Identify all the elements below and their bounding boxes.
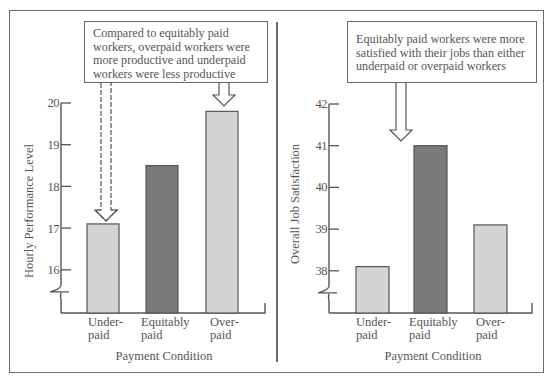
y-tick-label: 17 [35,222,59,237]
category-line: paid [476,329,536,342]
down-arrow-icon [213,83,235,106]
x-category-label: Under- paid [88,316,148,342]
down-arrow-icon [390,83,412,141]
right-x-axis-label: Payment Condition [333,349,533,364]
category-line: paid [88,329,148,342]
y-tick-label: 38 [303,264,327,279]
left-annotation-box: Compared to equitably paid workers, over… [84,21,268,83]
x-category-label: Over- paid [210,316,270,342]
category-line: paid [210,329,270,342]
bar [146,166,178,313]
bar [414,146,447,313]
axis-break-mark [318,287,337,293]
bar [356,267,389,313]
right-y-axis-label: Overall Job Satisfaction [288,144,303,264]
y-tick-label: 19 [35,138,59,153]
annotation-line: Compared to equitably paid [93,27,261,41]
annotation-line: more productive and underpaid [93,54,261,68]
x-category-label: Equitably paid [141,316,201,342]
bar [87,224,119,313]
category-line: paid [356,329,416,342]
right-annotation-box: Equitably paid workers were more satisfi… [347,21,537,83]
y-tick-label: 40 [303,180,327,195]
category-line: paid [409,329,469,342]
y-tick-label: 18 [35,180,59,195]
x-category-label: Equitably paid [409,316,469,342]
bar [206,111,238,313]
y-tick-label: 41 [303,139,327,154]
y-axis-line-lower [329,294,330,313]
category-line: paid [141,329,201,342]
annotation-line: workers were less productive [93,68,261,82]
axis-break-mark [50,286,69,292]
y-tick-label: 42 [303,97,327,112]
annotation-line: Equitably paid workers were more [356,33,530,47]
bar [474,225,507,313]
x-category-label: Over- paid [476,316,536,342]
y-tick-label: 16 [35,263,59,278]
y-tick-label: 39 [303,222,327,237]
annotation-line: workers, overpaid workers were [93,41,261,55]
left-x-axis-label: Payment Condition [64,349,264,364]
down-arrow-icon [95,83,117,221]
x-category-label: Under- paid [356,316,416,342]
annotation-line: underpaid or overpaid workers [356,60,530,74]
left-y-axis-label: Hourly Performance Level [22,144,37,278]
y-tick-label: 20 [35,96,59,111]
y-axis-line-lower [61,293,62,313]
annotation-line: satisfied with their jobs than either [356,47,530,61]
